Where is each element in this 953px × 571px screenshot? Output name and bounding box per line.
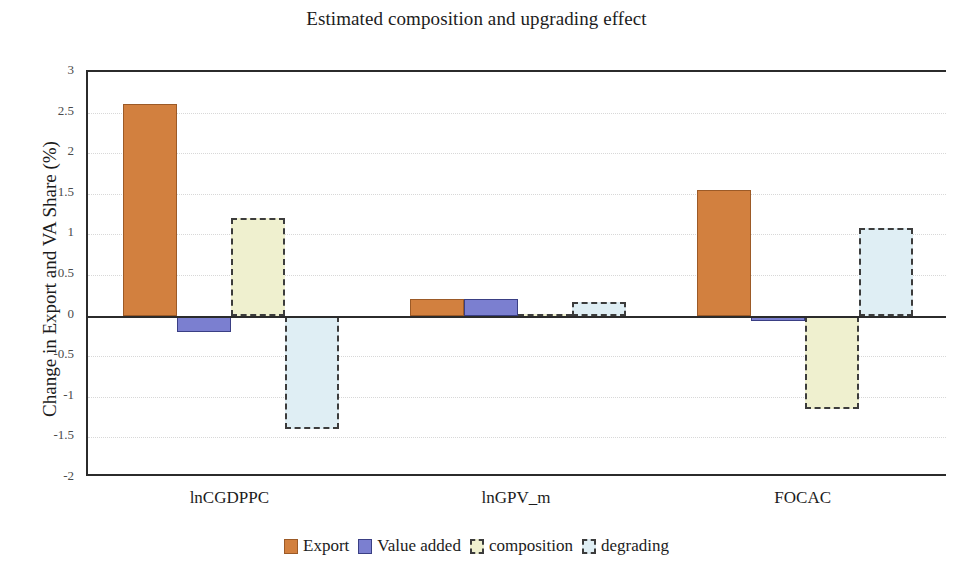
bar-degrading-lncgdppc [285, 316, 339, 430]
y-tick-label: 1 [0, 224, 74, 240]
y-tick-label: -1.5 [0, 427, 74, 443]
legend-label-composition: composition [489, 536, 573, 556]
legend-label-export: Export [303, 536, 349, 556]
legend-swatch-export-icon [284, 539, 298, 554]
bar-value-added-lncgdppc [177, 316, 231, 332]
legend-swatch-composition-icon [470, 539, 484, 554]
y-tick-label: -1 [0, 387, 74, 403]
gridline [88, 194, 946, 195]
bar-value-added-lngpv_m [464, 299, 518, 315]
bar-composition-lncgdppc [231, 218, 285, 315]
y-tick-label: 1.5 [0, 184, 74, 200]
bar-export-lncgdppc [123, 104, 177, 315]
bar-export-focac [697, 190, 751, 316]
gridline [88, 153, 946, 154]
legend-entry-export[interactable]: Export [284, 536, 349, 556]
y-tick-label: -0.5 [0, 346, 74, 362]
y-tick-label: 3 [0, 62, 74, 78]
gridline [88, 437, 946, 438]
legend-entry-value-added[interactable]: Value added [358, 536, 461, 556]
gridline [88, 275, 946, 276]
y-tick-label: 2 [0, 143, 74, 159]
bar-export-lngpv_m [410, 299, 464, 315]
y-tick-label: -2 [0, 468, 74, 484]
gridline [88, 113, 946, 114]
y-tick-label: 0 [0, 306, 74, 322]
legend-entry-degrading[interactable]: degrading [582, 536, 669, 556]
legend-label-degrading: degrading [601, 536, 669, 556]
gridline [88, 234, 946, 235]
x-category-label-focac: FOCAC [659, 488, 946, 508]
legend-swatch-degrading-icon [582, 539, 596, 554]
bar-degrading-lngpv_m [572, 302, 626, 316]
plot-area [86, 70, 946, 476]
chart-legend: ExportValue addedcompositiondegrading [0, 536, 953, 556]
legend-swatch-value-added-icon [358, 539, 372, 554]
legend-label-value-added: Value added [377, 536, 461, 556]
legend-entry-composition[interactable]: composition [470, 536, 573, 556]
chart-figure: Estimated composition and upgrading effe… [0, 0, 953, 571]
y-tick-label: 0.5 [0, 265, 74, 281]
chart-title: Estimated composition and upgrading effe… [0, 8, 953, 30]
x-category-label-lncgdppc: lnCGDPPC [86, 488, 373, 508]
x-category-label-lngpv_m: lnGPV_m [373, 488, 660, 508]
zero-baseline [88, 316, 946, 318]
bar-composition-focac [805, 316, 859, 409]
bar-degrading-focac [859, 228, 913, 316]
y-tick-label: 2.5 [0, 103, 74, 119]
